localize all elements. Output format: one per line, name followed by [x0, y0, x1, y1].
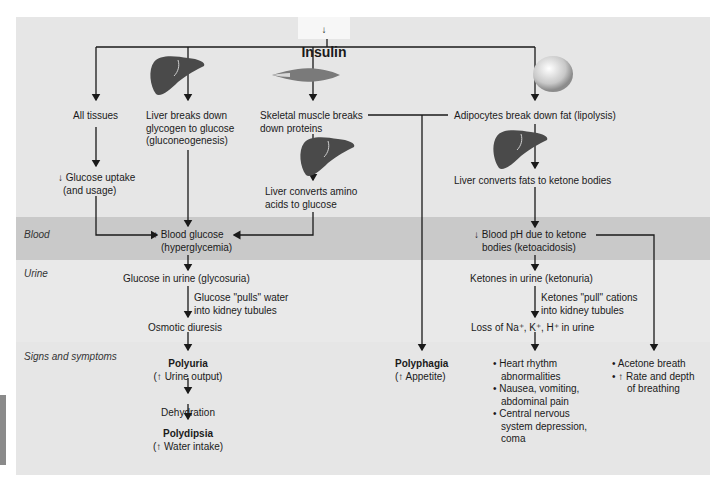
- node-glycosuria: Glucose in urine (glycosuria): [123, 273, 250, 286]
- node-polyuria: Polyuria (↑ Urine output): [150, 358, 226, 383]
- row-label-urine: Urine: [24, 268, 48, 279]
- node-glucose-pulls: Glucose "pulls" water into kidney tubule…: [194, 292, 288, 317]
- skeletal-muscle-icon: [272, 66, 340, 84]
- node-breath-symptoms: • Acetone breath • ↑ Rate and depth of b…: [612, 358, 694, 396]
- node-blood-ph: ↓ Blood pH due to ketone bodies (ketoaci…: [474, 229, 586, 254]
- node-ketoacidosis-symptoms: • Heart rhythm abnormalities • Nausea, v…: [493, 358, 587, 446]
- node-adipocytes: Adipocytes break down fat (lipolysis): [454, 110, 616, 123]
- down-arrow-icon: ↓: [322, 24, 327, 35]
- liver-icon: [148, 54, 206, 100]
- node-liver-fats: Liver converts fats to ketone bodies: [454, 175, 611, 188]
- node-dehydration: Dehydration: [150, 407, 226, 420]
- node-blood-glucose: ↑ Blood glucose (hyperglycemia): [153, 229, 232, 254]
- node-loss-ions: Loss of Na⁺, K⁺, H⁺ in urine: [471, 322, 594, 335]
- insulin-title: ↓ Insulin: [298, 17, 350, 39]
- node-liver-amino: Liver converts amino acids to glucose: [265, 186, 357, 211]
- node-polydipsia: Polydipsia (↑ Water intake): [150, 428, 226, 453]
- node-polyphagia: Polyphagia (↑ Appetite): [395, 358, 448, 383]
- liver-icon: [491, 128, 549, 174]
- row-label-signs: Signs and symptoms: [24, 351, 117, 362]
- adipocyte-icon: [531, 54, 575, 94]
- node-glucose-uptake: ↓ Glucose uptake (and usage): [58, 172, 135, 197]
- node-all-tissues: All tissues: [73, 110, 118, 123]
- insulin-label: Insulin: [301, 44, 346, 60]
- node-liver-glycogen: Liver breaks down glycogen to glucose (g…: [146, 110, 234, 148]
- node-ketones-pull: Ketones "pull" cations into kidney tubul…: [541, 292, 638, 317]
- flow-connectors: [0, 0, 726, 481]
- node-osmotic-diuresis: Osmotic diuresis: [148, 322, 222, 335]
- liver-icon: [298, 135, 356, 181]
- node-skeletal-muscle: Skeletal muscle breaks down proteins: [260, 110, 363, 135]
- node-ketonuria: Ketones in urine (ketonuria): [470, 273, 593, 286]
- row-label-blood: Blood: [24, 229, 50, 240]
